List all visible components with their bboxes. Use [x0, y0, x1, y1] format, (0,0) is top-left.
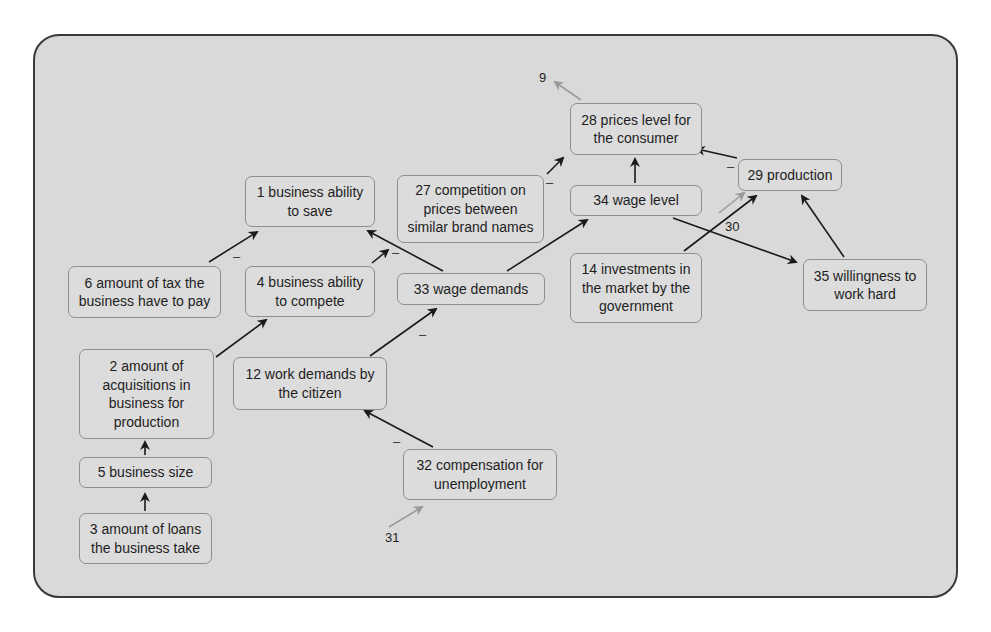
- node-3-amount-of-loans[interactable]: 3 amount of loans the business take: [79, 513, 212, 564]
- external-label-9: 9: [539, 70, 546, 85]
- node-34-wage-level[interactable]: 34 wage level: [570, 185, 702, 216]
- node-1-business-ability-to-save[interactable]: 1 business ability to save: [245, 176, 375, 227]
- node-6-amount-of-tax[interactable]: 6 amount of tax the business have to pay: [68, 266, 221, 318]
- node-33-wage-demands[interactable]: 33 wage demands: [397, 273, 545, 305]
- node-28-prices-level-for-consumer[interactable]: 28 prices level for the consumer: [570, 103, 702, 155]
- node-12-work-demands-by-citizen[interactable]: 12 work demands by the citizen: [233, 357, 387, 410]
- polarity-minus-29-28: –: [727, 162, 734, 172]
- external-label-31: 31: [385, 530, 399, 545]
- node-35-willingness-to-work-hard[interactable]: 35 willingness to work hard: [803, 259, 927, 311]
- external-label-30: 30: [725, 219, 739, 234]
- node-32-compensation-for-unemployment[interactable]: 32 compensation for unemployment: [403, 449, 557, 500]
- node-5-business-size[interactable]: 5 business size: [79, 457, 212, 488]
- node-27-competition-on-prices[interactable]: 27 competition on prices between similar…: [397, 175, 544, 243]
- node-14-investments-by-government[interactable]: 14 investments in the market by the gove…: [570, 253, 702, 323]
- polarity-minus-12-33: –: [419, 330, 426, 340]
- polarity-minus-27-28: –: [546, 178, 553, 188]
- polarity-minus-6-1: –: [233, 252, 240, 262]
- polarity-minus-32-12: –: [393, 437, 400, 447]
- node-29-production[interactable]: 29 production: [738, 159, 842, 191]
- node-2-amount-of-acquisitions[interactable]: 2 amount of acquisitions in business for…: [79, 349, 214, 439]
- node-4-business-ability-to-compete[interactable]: 4 business ability to compete: [245, 266, 375, 317]
- polarity-minus-33-1: –: [392, 248, 399, 258]
